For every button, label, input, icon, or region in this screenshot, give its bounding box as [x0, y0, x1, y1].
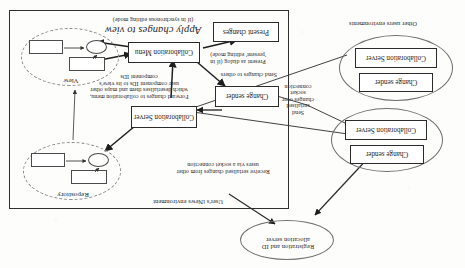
view-component-b — [29, 40, 63, 54]
present-changes-box: Present changes — [213, 22, 279, 42]
annotation-receive-changes: Receive serialised changes from other us… — [171, 162, 275, 175]
annotation-send-changes-to-others: Send changes to others — [221, 71, 277, 78]
user-inews-environment-label: User's iNews environment — [153, 199, 223, 206]
remote-collaboration-server-1: Collaboration Server — [345, 120, 427, 140]
view-component-a — [69, 57, 105, 71]
repository-component-b — [31, 153, 65, 167]
remote-collaboration-server-2: Collaboration Server — [355, 48, 437, 68]
repository-component-a — [71, 170, 107, 184]
change-sender-box: Change sender — [215, 86, 279, 107]
repository-root-node — [88, 153, 109, 167]
annotation-send-serialised-changes: Send serialised changes over socket conn… — [281, 83, 315, 116]
remote-change-sender-1: Change sender — [350, 145, 424, 164]
apply-changes-title: Apply changes to view — [99, 24, 207, 36]
annotation-present-as-dialog: Present as dialog (if in 'present' editi… — [201, 52, 275, 65]
apply-changes-subtitle: (if in synchronous editing mode) — [99, 16, 207, 23]
repository-label: Repository — [25, 190, 121, 198]
remote-change-sender-2: Change sender — [359, 73, 433, 92]
collaboration-menu-box: Collaboration Menu — [128, 42, 200, 63]
diagram-canvas: Change sender Collaboration Server Chang… — [0, 0, 465, 268]
view-root-node — [86, 40, 107, 54]
registration-server-label: Registration and ID allocation server — [248, 237, 328, 251]
collaboration-server-box: Collaboration Server — [131, 106, 197, 128]
view-label: View — [23, 76, 119, 84]
other-users-environments-label: Other users environments — [323, 21, 443, 28]
